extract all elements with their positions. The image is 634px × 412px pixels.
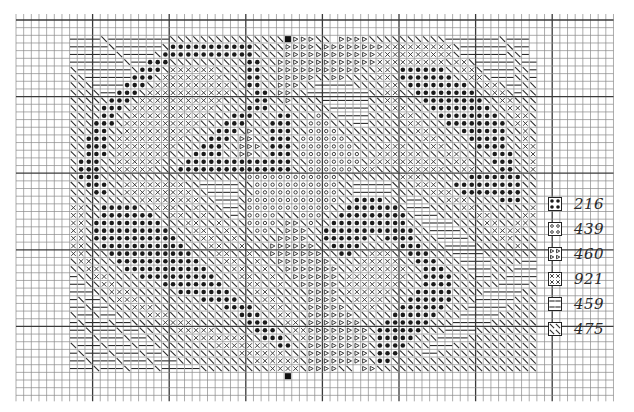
floss-code: 475 xyxy=(574,320,604,338)
legend-item-475: 475 xyxy=(548,321,604,337)
cross-stitch-chart xyxy=(0,0,634,412)
legend-item-439: 439 xyxy=(548,221,604,237)
legend-item-459: 459 xyxy=(548,296,604,312)
floss-code: 460 xyxy=(574,245,604,263)
dot-symbol-icon xyxy=(548,197,562,211)
legend-item-460: 460 xyxy=(548,246,604,262)
dash-symbol-icon xyxy=(548,297,562,311)
floss-code: 216 xyxy=(574,195,604,213)
floss-code: 439 xyxy=(574,220,604,238)
legend-item-216: 216 xyxy=(548,196,604,212)
floss-code: 459 xyxy=(574,295,604,313)
floss-code: 921 xyxy=(574,270,604,288)
cross-symbol-icon xyxy=(548,272,562,286)
triangle-symbol-icon xyxy=(548,247,562,261)
circle-symbol-icon xyxy=(548,222,562,236)
legend-item-921: 921 xyxy=(548,271,604,287)
slash-symbol-icon xyxy=(548,322,562,336)
